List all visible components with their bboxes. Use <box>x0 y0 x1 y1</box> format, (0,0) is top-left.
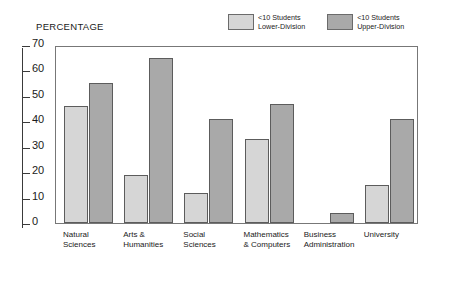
bar-group <box>305 47 354 223</box>
y-tick-mark <box>22 71 30 72</box>
y-tick-mark <box>22 46 30 47</box>
legend-label: <10 StudentsUpper-Division <box>357 13 404 31</box>
chart-legend: <10 StudentsLower-Division<10 StudentsUp… <box>228 13 404 31</box>
legend-label-line2: Upper-Division <box>357 22 404 31</box>
legend-label-line1: <10 Students <box>258 13 301 22</box>
y-tick-mark <box>22 199 30 200</box>
x-axis-labels: NaturalSciencesArts &HumanitiesSocialSci… <box>55 230 418 264</box>
legend-label-line1: <10 Students <box>357 13 400 22</box>
legend-entry: <10 StudentsLower-Division <box>228 13 305 31</box>
y-tick-mark <box>22 148 30 149</box>
bar-group <box>184 47 233 223</box>
y-axis: 010203040506070 <box>22 44 55 228</box>
y-tick: 60 <box>22 71 55 72</box>
y-tick-mark <box>22 224 30 225</box>
x-axis-label-line1: Business <box>304 230 336 239</box>
x-axis-label: Mathematics& Computers <box>244 230 291 250</box>
legend-swatch-dark <box>327 14 353 30</box>
bars-container <box>56 47 417 223</box>
x-axis-label: BusinessAdministration <box>304 230 355 250</box>
y-tick: 40 <box>22 122 55 123</box>
legend-label-line2: Lower-Division <box>258 22 305 31</box>
y-axis-spine <box>22 48 23 228</box>
y-tick: 50 <box>22 97 55 98</box>
y-tick-label: 70 <box>32 38 44 49</box>
x-axis-label-line2: Humanities <box>123 240 163 250</box>
y-axis-title: PERCENTAGE <box>36 21 104 32</box>
y-tick: 0 <box>22 224 55 225</box>
bar-upper-division <box>209 119 233 223</box>
x-axis-label: NaturalSciences <box>63 230 95 250</box>
bar-upper-division <box>149 58 173 223</box>
legend-label: <10 StudentsLower-Division <box>258 13 305 31</box>
bar-lower-division <box>245 139 269 223</box>
x-axis-label: Arts &Humanities <box>123 230 163 250</box>
y-tick: 20 <box>22 173 55 174</box>
y-tick: 30 <box>22 148 55 149</box>
bar-lower-division <box>124 175 148 223</box>
y-tick-label: 10 <box>32 191 44 202</box>
y-tick: 70 <box>22 46 55 47</box>
bar-group <box>64 47 113 223</box>
x-axis-label-line1: Arts & <box>123 230 145 239</box>
bar-upper-division <box>270 104 294 224</box>
bar-group <box>245 47 294 223</box>
x-axis-label: SocialSciences <box>183 230 215 250</box>
bar-upper-division <box>89 83 113 223</box>
bar-chart: PERCENTAGE <10 StudentsLower-Division<10… <box>0 0 452 282</box>
x-axis-label-line2: & Computers <box>244 240 291 250</box>
y-tick-label: 20 <box>32 165 44 176</box>
y-tick-label: 30 <box>32 140 44 151</box>
y-tick: 10 <box>22 199 55 200</box>
x-axis-label-line2: Sciences <box>63 240 95 250</box>
bar-upper-division <box>390 119 414 223</box>
y-tick-label: 40 <box>32 114 44 125</box>
y-tick-mark <box>22 173 30 174</box>
x-axis-label: University <box>364 230 399 240</box>
bar-lower-division <box>365 185 389 223</box>
bar-lower-division <box>64 106 88 223</box>
x-axis-label-line2: Sciences <box>183 240 215 250</box>
y-tick-mark <box>22 97 30 98</box>
plot-area <box>55 46 418 224</box>
bar-group <box>124 47 173 223</box>
x-axis-label-line1: Natural <box>63 230 89 239</box>
x-axis-label-line1: Social <box>183 230 205 239</box>
y-tick-label: 50 <box>32 89 44 100</box>
x-axis-label-line1: Mathematics <box>244 230 289 239</box>
y-tick-label: 60 <box>32 63 44 74</box>
x-axis-label-line1: University <box>364 230 399 239</box>
y-tick-mark <box>22 122 30 123</box>
x-axis-label-line2: Administration <box>304 240 355 250</box>
y-tick-label: 0 <box>32 216 38 227</box>
legend-entry: <10 StudentsUpper-Division <box>327 13 404 31</box>
legend-swatch-light <box>228 14 254 30</box>
bar-upper-division <box>330 213 354 223</box>
bar-lower-division <box>184 193 208 224</box>
bar-group <box>365 47 414 223</box>
